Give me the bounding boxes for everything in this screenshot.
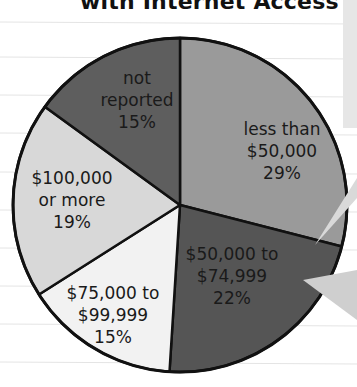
slice-label-not-reported: not reported 15% [100,67,173,133]
slice-label-50k-to-75k: $50,000 to $74,999 22% [186,243,279,309]
slice-label-75k-to-100k: $75,000 to $99,999 15% [67,282,160,348]
slice-label-less-than-50k: less than $50,000 29% [244,118,321,184]
slice-label-100k-or-more: $100,000 or more 19% [31,167,112,233]
